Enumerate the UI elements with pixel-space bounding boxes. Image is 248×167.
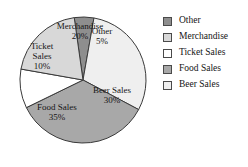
chart-legend: OtherMerchandiseTicket SalesFood SalesBe… — [163, 13, 248, 93]
legend-item-label: Beer Sales — [179, 80, 219, 90]
legend-item-label: Food Sales — [179, 64, 221, 74]
legend-swatch-icon — [163, 17, 172, 26]
legend-item-label: Merchandise — [179, 32, 228, 42]
legend-swatch-icon — [163, 49, 172, 58]
legend-swatch-icon — [163, 33, 172, 42]
legend-item-food-sales[interactable]: Food Sales — [163, 61, 248, 77]
legend-swatch-icon — [163, 81, 172, 90]
legend-item-ticket-sales[interactable]: Ticket Sales — [163, 45, 248, 61]
pie-chart-svg: Other5%Beer Sales30%Food Sales35%TicketS… — [0, 0, 160, 167]
pie-chart-area: Other5%Beer Sales30%Food Sales35%TicketS… — [0, 0, 160, 167]
legend-item-label: Other — [179, 16, 201, 26]
legend-item-label: Ticket Sales — [179, 48, 225, 58]
legend-item-merchandise[interactable]: Merchandise — [163, 29, 248, 45]
legend-item-other[interactable]: Other — [163, 13, 248, 29]
legend-swatch-icon — [163, 65, 172, 74]
legend-item-beer-sales[interactable]: Beer Sales — [163, 77, 248, 93]
pie-chart-figure: Other5%Beer Sales30%Food Sales35%TicketS… — [0, 0, 248, 167]
